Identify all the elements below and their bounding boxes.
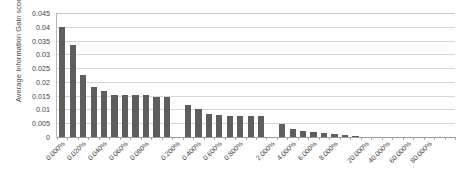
x-tick-label: 0.800% bbox=[223, 140, 244, 161]
y-axis-tick-labels: 0.0450.040.0350.030.0250.020.0150.010.00… bbox=[0, 13, 53, 137]
x-tick-label: 2.000% bbox=[254, 140, 275, 161]
x-axis-tick-labels: 0.000%0.020%0.040%0.060%0.080%0.200%0.40… bbox=[56, 140, 454, 186]
plot-area bbox=[56, 13, 455, 138]
y-tick-label: 0 bbox=[46, 133, 50, 142]
bar bbox=[258, 116, 264, 137]
bar bbox=[111, 95, 117, 137]
x-tick-label: 0.080% bbox=[128, 140, 149, 161]
x-tick-label: 6.000% bbox=[296, 140, 317, 161]
y-tick-label: 0.045 bbox=[32, 9, 50, 18]
bar bbox=[132, 95, 138, 137]
bar bbox=[164, 97, 170, 137]
bar bbox=[70, 45, 76, 137]
x-tick-label: 0.060% bbox=[108, 140, 129, 161]
x-tick-label: 4.000% bbox=[275, 140, 296, 161]
bar bbox=[279, 124, 285, 137]
x-tick-label: 0.400% bbox=[181, 140, 202, 161]
bar-series bbox=[57, 13, 455, 137]
x-tick-label: 20.000% bbox=[346, 140, 370, 164]
bar bbox=[143, 95, 149, 137]
bar bbox=[153, 97, 159, 137]
bar bbox=[91, 87, 97, 137]
x-tick-label: 40.000% bbox=[367, 140, 391, 164]
bar bbox=[195, 109, 201, 137]
bar bbox=[122, 95, 128, 137]
bar bbox=[101, 91, 107, 137]
bar bbox=[59, 27, 65, 137]
y-tick-label: 0.015 bbox=[32, 91, 50, 100]
bar bbox=[80, 75, 86, 137]
x-tick-label: 0.200% bbox=[160, 140, 181, 161]
bar bbox=[185, 105, 191, 137]
bar bbox=[206, 114, 212, 137]
information-gain-bar-chart: Average Information Gain score 0.0450.04… bbox=[0, 0, 467, 189]
x-tick-label: 0.600% bbox=[202, 140, 223, 161]
x-tick-label: 0.000% bbox=[45, 140, 66, 161]
x-tick-label: 0.020% bbox=[66, 140, 87, 161]
y-tick-label: 0.025 bbox=[32, 64, 50, 73]
bar bbox=[237, 116, 243, 137]
y-tick-label: 0.01 bbox=[36, 105, 50, 114]
y-tick-label: 0.04 bbox=[36, 22, 50, 31]
x-tick-label: 0.040% bbox=[87, 140, 108, 161]
x-tick-label: 8.000% bbox=[317, 140, 338, 161]
y-tick-label: 0.035 bbox=[32, 36, 50, 45]
x-tick-label: 80.000% bbox=[409, 140, 433, 164]
bar bbox=[290, 129, 296, 137]
bar bbox=[248, 116, 254, 137]
x-tick-label: 60.000% bbox=[388, 140, 412, 164]
y-tick-label: 0.005 bbox=[32, 119, 50, 128]
bar bbox=[227, 116, 233, 137]
x-tick-mark bbox=[455, 137, 456, 140]
y-tick-label: 0.03 bbox=[36, 50, 50, 59]
y-tick-label: 0.02 bbox=[36, 77, 50, 86]
bar bbox=[216, 115, 222, 137]
